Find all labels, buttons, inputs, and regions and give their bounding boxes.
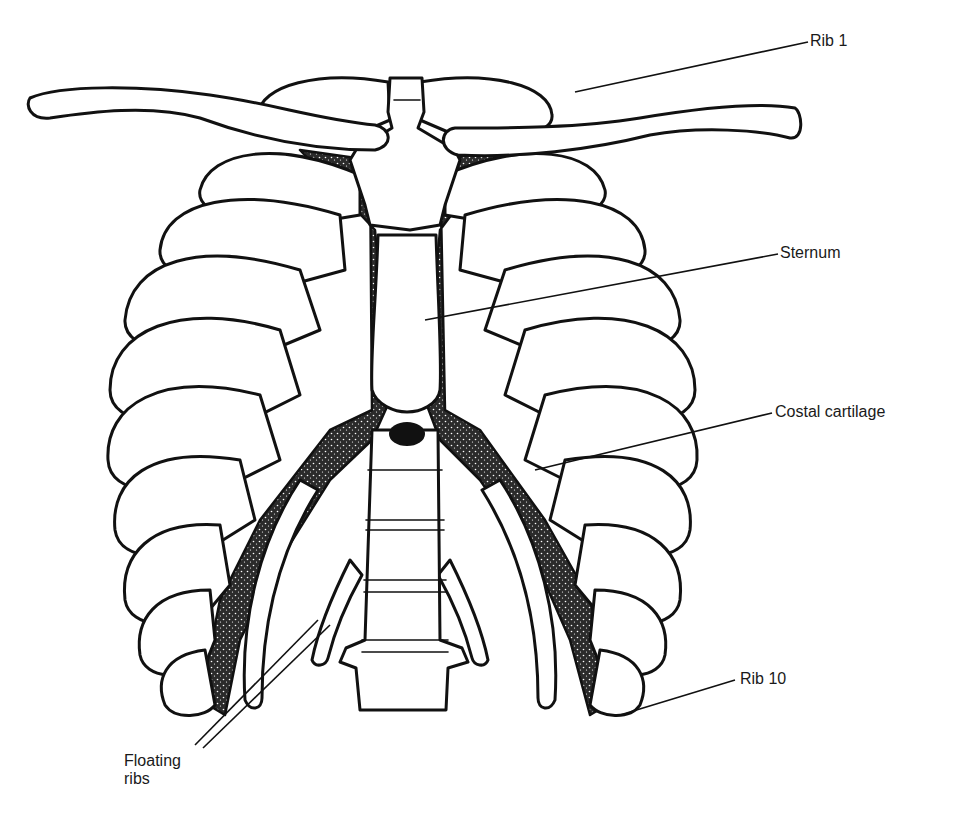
label-costal-cartilage: Costal cartilage [775, 403, 885, 421]
label-rib-10: Rib 10 [740, 670, 786, 688]
label-sternum: Sternum [780, 244, 840, 262]
leader-rib-1 [575, 42, 808, 92]
label-floating-ribs: Floating ribs [124, 752, 181, 788]
label-floating-ribs-line1: Floating [124, 752, 181, 770]
label-rib-1: Rib 1 [810, 32, 847, 50]
xiphoid-process [389, 422, 425, 446]
label-floating-ribs-line2: ribs [124, 770, 181, 788]
